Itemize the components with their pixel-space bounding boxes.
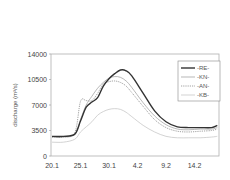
legend-label: -KN-: [197, 74, 209, 80]
legend-label: -RE-: [197, 65, 209, 71]
y-tick-label: 14000: [28, 51, 48, 58]
legend-label: -KB-: [197, 92, 209, 98]
x-axis-ticks: 20.125.130.14.29.214.2: [45, 162, 201, 169]
y-tick-label: 3500: [31, 127, 47, 134]
y-tick-label: 0: [43, 153, 47, 160]
legend-label: -AN-: [197, 83, 209, 89]
y-axis-label: discharge (m³/s): [12, 83, 18, 126]
y-axis-ticks: 0350070001050014000: [28, 51, 51, 160]
x-tick-label: 9.2: [161, 162, 171, 169]
y-tick-label: 10500: [28, 76, 48, 83]
x-tick-label: 4.2: [133, 162, 143, 169]
x-tick-label: 14.2: [188, 162, 202, 169]
x-tick-label: 20.1: [45, 162, 59, 169]
x-tick-label: 30.1: [102, 162, 116, 169]
x-tick-label: 25.1: [74, 162, 88, 169]
legend: -RE--KN--AN--KB-: [178, 61, 220, 101]
discharge-line-chart: 0350070001050014000 20.125.130.14.29.214…: [0, 0, 230, 180]
y-tick-label: 7000: [31, 102, 47, 109]
